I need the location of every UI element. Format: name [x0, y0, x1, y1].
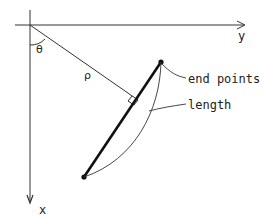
rho-label: ρ [84, 70, 91, 81]
x-axis-label: x [39, 204, 46, 216]
length-leader [149, 104, 186, 111]
theta-label: θ [36, 44, 43, 55]
rho-line [30, 25, 138, 100]
end-points-label: end points [188, 73, 260, 85]
hough-line-diagram: y x θ ρ end points length [0, 0, 270, 218]
y-axis-label: y [238, 30, 245, 42]
line-segment [84, 62, 161, 177]
length-label: length [188, 99, 231, 111]
end-points-leader [162, 64, 186, 78]
